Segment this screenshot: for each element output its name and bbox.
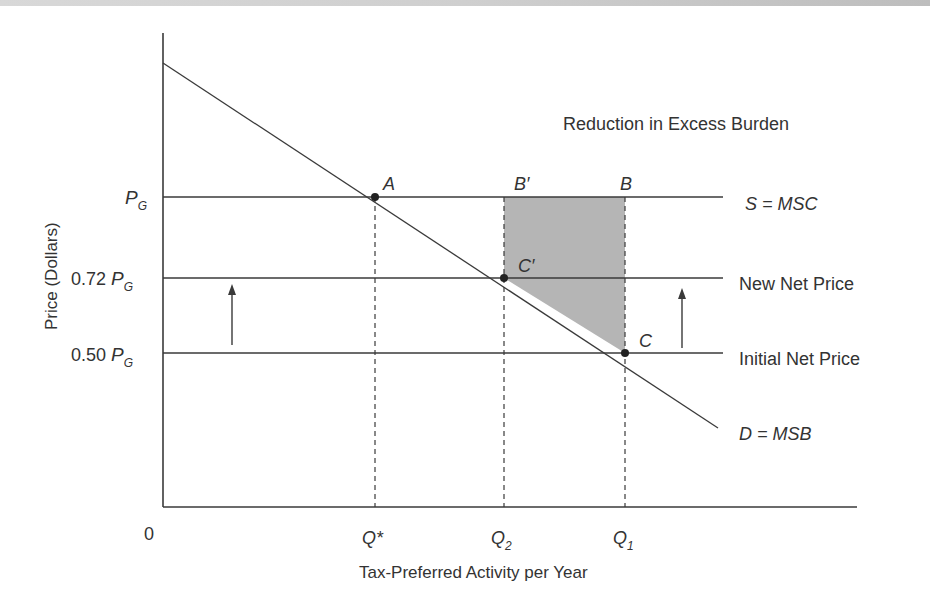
y-tick-pg: PG [125, 187, 147, 213]
label-new-net-price: New Net Price [739, 274, 854, 294]
label-initial-net-price: Initial Net Price [739, 349, 860, 369]
excess-burden-chart: Reduction in Excess Burden Price (Dollar… [0, 0, 930, 610]
y-axis-label: Price (Dollars) [42, 222, 61, 330]
label-point-a: A [382, 174, 395, 194]
label-point-c: C [639, 331, 653, 351]
point-a [371, 193, 379, 201]
x-tick-q1: Q1 [613, 528, 634, 553]
origin-label: 0 [144, 524, 154, 544]
label-demand-msb: D = MSB [739, 424, 812, 444]
point-c-prime [500, 274, 508, 282]
label-supply-msc: S = MSC [745, 194, 819, 214]
point-c [621, 349, 629, 357]
up-arrow-left-icon [228, 284, 236, 345]
y-tick-050: 0.50 PG [71, 344, 133, 370]
chart-title: Reduction in Excess Burden [563, 114, 789, 134]
x-axis-label: Tax-Preferred Activity per Year [359, 563, 588, 582]
label-point-c-prime: C′ [518, 256, 535, 276]
x-tick-qstar: Q* [362, 528, 384, 548]
x-tick-q2: Q2 [491, 528, 512, 553]
label-point-b-prime: B′ [514, 174, 530, 194]
label-point-b: B [620, 174, 632, 194]
up-arrow-right-icon [678, 288, 686, 348]
y-tick-072: 0.72 PG [71, 268, 133, 294]
